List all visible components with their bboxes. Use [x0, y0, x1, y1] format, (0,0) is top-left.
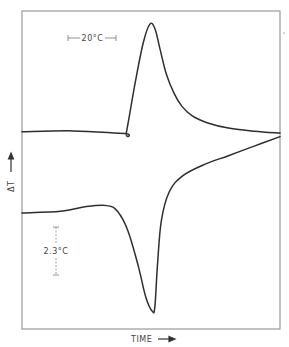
temperature-scale-bar-vertical: 2.3°C — [44, 227, 69, 275]
y-axis-label: ΔT — [7, 181, 16, 192]
lower-curve-line — [22, 137, 280, 313]
temperature-scale-bar-horizontal: 20°C — [68, 34, 116, 43]
series-layer — [22, 23, 280, 312]
speck — [283, 32, 284, 33]
scale-bar-vertical-label: 2.3°C — [44, 247, 69, 256]
x-axis-label-group: TIME — [130, 335, 175, 344]
y-axis-label-group: ΔT — [7, 153, 16, 192]
dta-chart: 20°C 2.3°C ΔT TIME — [0, 0, 289, 347]
upper-curve-line — [22, 23, 280, 136]
y-axis-arrow-head-icon — [9, 153, 14, 159]
x-axis-label: TIME — [130, 335, 152, 344]
x-axis-arrow-head-icon — [169, 337, 175, 342]
scale-bar-horizontal-label: 20°C — [82, 34, 104, 43]
plot-frame — [22, 11, 280, 329]
